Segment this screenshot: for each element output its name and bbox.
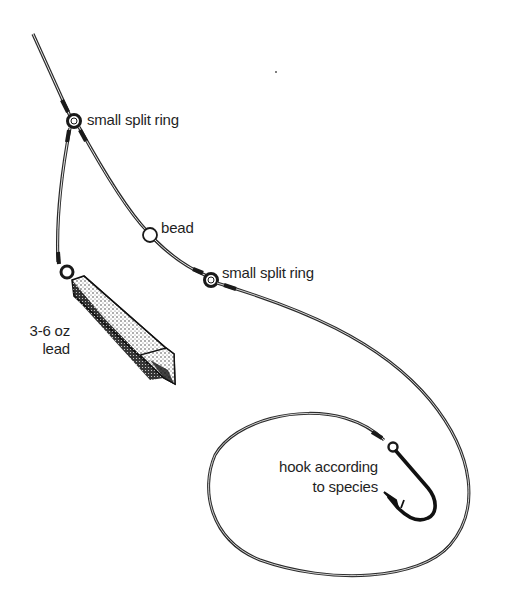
second-ring-trace <box>155 240 207 276</box>
fishing-rig-diagram: small split ring bead small split ring 3… <box>0 0 507 600</box>
hook-icon <box>384 443 435 520</box>
lead-weight-icon <box>61 266 175 384</box>
hook-label-line1: hook according <box>230 458 378 475</box>
bead-icon <box>143 228 157 242</box>
lead-link-line <box>58 128 70 264</box>
top-split-ring-label: small split ring <box>87 111 179 128</box>
bead-label: bead <box>161 219 194 236</box>
rig-illustration <box>0 0 507 600</box>
hook-label-line2: to species <box>230 478 378 495</box>
hook-trace <box>209 283 469 576</box>
lead-weight-label-line2: lead <box>26 340 70 357</box>
lead-weight-label-line1: 3-6 oz <box>26 322 70 339</box>
main-line <box>33 34 70 116</box>
speck <box>275 71 277 73</box>
second-split-ring-icon <box>205 274 218 287</box>
bead-trace <box>79 127 147 231</box>
second-split-ring-label: small split ring <box>222 264 314 281</box>
top-split-ring-icon <box>68 115 81 128</box>
